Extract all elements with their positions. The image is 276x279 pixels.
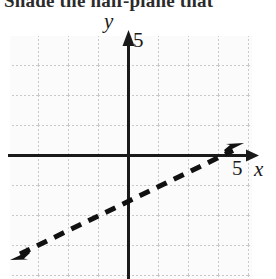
- x-axis-tick-label-5: 5: [232, 158, 243, 179]
- figure-container: Shade the half-plane that: [0, 0, 276, 279]
- coordinate-plane: y 5 5 x: [0, 0, 276, 279]
- y-axis-tick-label-5: 5: [133, 30, 144, 51]
- boundary-line-stroke: [20, 151, 233, 255]
- y-axis-label: y: [104, 11, 113, 32]
- x-axis-label: x: [254, 159, 263, 180]
